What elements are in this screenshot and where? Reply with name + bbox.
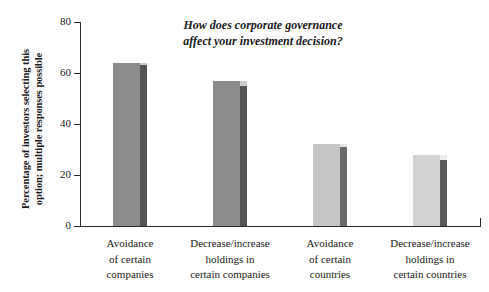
bar-top-cap <box>240 81 247 86</box>
bar-side-face <box>340 147 347 226</box>
y-tick-label: 80 <box>60 15 71 27</box>
y-axis-line <box>80 22 81 227</box>
y-tick-label: 20 <box>60 168 71 180</box>
bar-front-face <box>113 63 140 226</box>
plot-area: 020406080 <box>80 22 480 226</box>
y-tick-label: 60 <box>60 66 71 78</box>
y-tick-mark <box>74 226 80 227</box>
bar-front-face <box>413 155 440 226</box>
y-tick-mark <box>74 73 80 74</box>
y-tick-mark <box>74 175 80 176</box>
bar-group <box>313 22 347 226</box>
x-axis-labels: Avoidance of certain companiesDecrease/i… <box>80 236 480 290</box>
x-axis-line <box>80 226 481 227</box>
y-axis-title: Percentage of investors selecting this o… <box>19 16 59 242</box>
bar-chart: Percentage of investors selecting this o… <box>0 0 489 292</box>
y-tick-label: 40 <box>60 117 71 129</box>
x-axis-label: Avoidance of certain countries <box>278 236 382 283</box>
bar-side-face <box>140 65 147 226</box>
bar-group <box>413 22 447 226</box>
x-axis-label: Decrease/increase holdings in certain co… <box>378 236 482 283</box>
bar-top-cap <box>140 63 147 66</box>
bar-top-cap <box>440 155 447 160</box>
x-axis-label: Decrease/increase holdings in certain co… <box>178 236 282 283</box>
y-tick-mark <box>74 22 80 23</box>
bar-side-face <box>240 86 247 226</box>
bar-side-face <box>440 160 447 226</box>
x-axis-label: Avoidance of certain companies <box>78 236 182 283</box>
y-tick-mark <box>74 124 80 125</box>
bar-top-cap <box>340 144 347 147</box>
bar-front-face <box>213 81 240 226</box>
y-tick-label: 0 <box>66 219 72 231</box>
bar-group <box>113 22 147 226</box>
bar-group <box>213 22 247 226</box>
x-axis-right-cap <box>480 218 481 227</box>
bar-front-face <box>313 144 340 226</box>
